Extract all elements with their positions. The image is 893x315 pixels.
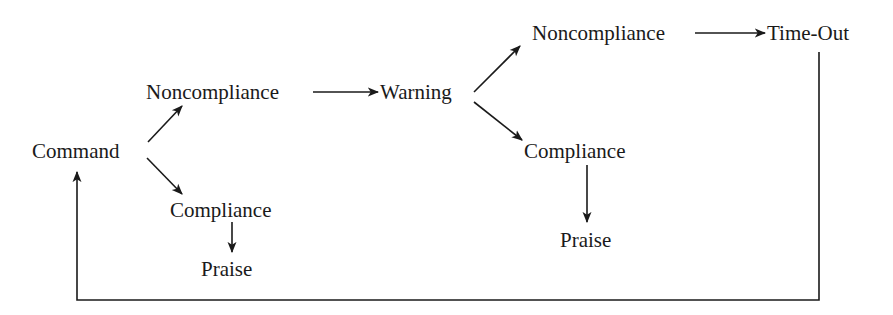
node-warning: Warning: [380, 82, 452, 103]
node-praise-second: Praise: [560, 230, 611, 251]
arrow-command-to-noncompliance: [148, 106, 182, 142]
node-time-out: Time-Out: [767, 23, 849, 44]
node-compliance-first: Compliance: [170, 200, 271, 221]
arrow-warning-to-compliance: [474, 102, 522, 140]
diagram-arrows: [0, 0, 893, 315]
node-noncompliance-second: Noncompliance: [532, 23, 665, 44]
behavior-flow-diagram: Command Noncompliance Compliance Praise …: [0, 0, 893, 315]
arrow-warning-to-noncompliance: [474, 46, 520, 92]
node-compliance-second: Compliance: [524, 141, 625, 162]
arrow-command-to-compliance: [147, 158, 182, 194]
node-praise-first: Praise: [201, 259, 252, 280]
node-command: Command: [32, 141, 120, 162]
node-noncompliance-first: Noncompliance: [146, 82, 279, 103]
